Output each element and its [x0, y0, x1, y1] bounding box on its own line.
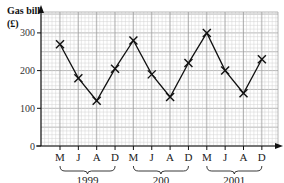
year-brace [133, 166, 188, 174]
year-brace [207, 166, 262, 174]
x-tick-label: A [93, 151, 101, 163]
x-tick-label: D [258, 151, 266, 163]
x-tick-label: M [202, 151, 212, 163]
x-tick-label: A [166, 151, 174, 163]
y-axis-title-line2: (£) [7, 18, 19, 30]
y-tick-label: 100 [20, 103, 35, 114]
x-tick-label: D [184, 151, 192, 163]
y-tick-label: 200 [20, 65, 35, 76]
x-tick-label: D [111, 151, 119, 163]
x-tick-label: A [240, 151, 248, 163]
y-tick-label: 0 [30, 141, 35, 152]
gas-bill-chart: Gas bill (£) 0100200300 MJADMJADMJAD 199… [0, 0, 284, 183]
y-tick-label: 300 [20, 27, 35, 38]
x-tick-label: J [76, 151, 81, 163]
year-groups: 19992002001 [60, 166, 262, 183]
x-tick-label: M [129, 151, 139, 163]
year-label: 1999 [77, 174, 100, 183]
year-label: 200 [153, 174, 170, 183]
year-brace [60, 166, 115, 174]
y-axis-title-line1: Gas bill [7, 5, 40, 16]
y-tick-labels: 0100200300 [20, 27, 41, 151]
x-tick-label: J [150, 151, 155, 163]
x-tick-label: J [223, 151, 228, 163]
x-axis-arrow-icon [275, 143, 283, 149]
x-tick-label: M [55, 151, 65, 163]
year-label: 2001 [223, 174, 245, 183]
x-tick-labels: MJADMJADMJAD [55, 146, 266, 163]
